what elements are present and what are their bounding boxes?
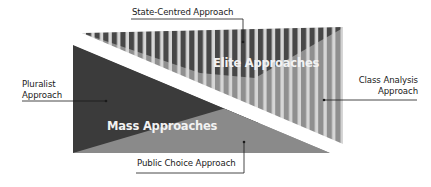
class-analysis-label: Class Analysis Approach bbox=[354, 75, 418, 97]
public-choice-label: Public Choice Approach bbox=[137, 158, 236, 169]
elite-approaches-label: Elite Approaches bbox=[213, 56, 319, 70]
class-analysis-label-line2: Approach bbox=[354, 86, 418, 97]
mass-approaches-label: Mass Approaches bbox=[107, 119, 217, 133]
class-analysis-label-line1: Class Analysis bbox=[354, 75, 418, 86]
approaches-diagram: Elite Approaches Mass Approaches State-C… bbox=[0, 0, 431, 187]
state-centred-label: State-Centred Approach bbox=[132, 7, 233, 18]
pluralist-label-line2: Approach bbox=[22, 90, 62, 101]
pluralist-label: Pluralist Approach bbox=[22, 79, 62, 101]
pluralist-label-line1: Pluralist bbox=[22, 79, 62, 90]
